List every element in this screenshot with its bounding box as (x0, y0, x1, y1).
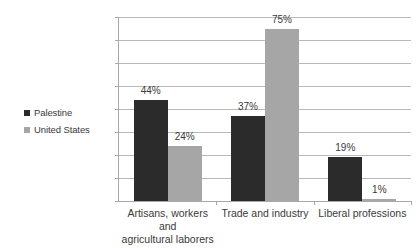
y-axis-tick (115, 132, 119, 133)
bar-groups: 44%24%37%75%19%1% (119, 17, 411, 201)
x-axis-category-label: Trade and industry (216, 207, 313, 220)
legend-item-palestine: Palestine (24, 104, 110, 121)
x-axis-tick (411, 201, 412, 205)
x-axis-category-line: Trade and industry (216, 207, 313, 220)
bar-value-label: 24% (175, 131, 195, 142)
legend-label-palestine: Palestine (34, 107, 72, 118)
bar-value-label: 19% (335, 142, 355, 153)
y-axis-tick (115, 40, 119, 41)
y-axis-tick (115, 155, 119, 156)
x-axis-category-line: Liberal professions (314, 207, 411, 220)
bar-value-label: 1% (372, 184, 386, 195)
legend-item-united-states: United States (24, 121, 110, 138)
y-axis-tick (115, 86, 119, 87)
chart-legend: Palestine United States (24, 104, 110, 138)
bar-group: 44%24% (119, 17, 216, 201)
plot-area: 44%24%37%75%19%1% (119, 17, 411, 201)
square-swatch-icon (24, 110, 30, 116)
bar-value-label: 44% (141, 85, 161, 96)
x-axis-category-label: Liberal professions (314, 207, 411, 220)
bar-chart: Palestine United States 0%10%20%30%40%50… (0, 0, 416, 248)
bar-group: 19%1% (314, 17, 411, 201)
x-axis-tick (314, 201, 315, 205)
bar-palestine[interactable]: 37% (231, 116, 265, 201)
x-axis-category-line: agricultural laborers (119, 233, 216, 246)
x-axis-category-label: Artisans, workers andagricultural labore… (119, 207, 216, 246)
bar-pair: 37%75% (231, 17, 299, 201)
bar-value-label: 75% (272, 14, 292, 25)
x-axis-category-line: Artisans, workers and (119, 207, 216, 233)
y-axis-tick (115, 63, 119, 64)
legend-label-united-states: United States (34, 124, 90, 135)
x-axis-line (118, 201, 411, 202)
bar-pair: 19%1% (328, 17, 396, 201)
bar-united-states[interactable]: 24% (168, 146, 202, 201)
y-axis-tick (115, 178, 119, 179)
square-swatch-icon (24, 127, 30, 133)
x-axis-labels: Artisans, workers andagricultural labore… (119, 207, 411, 247)
bar-pair: 44%24% (134, 17, 202, 201)
bar-group: 37%75% (216, 17, 313, 201)
bar-united-states[interactable]: 75% (265, 29, 299, 202)
y-axis-tick (115, 109, 119, 110)
bar-palestine[interactable]: 19% (328, 157, 362, 201)
bar-value-label: 37% (238, 101, 258, 112)
y-axis-tick (115, 17, 119, 18)
bar-palestine[interactable]: 44% (134, 100, 168, 201)
x-axis-tick (216, 201, 217, 205)
